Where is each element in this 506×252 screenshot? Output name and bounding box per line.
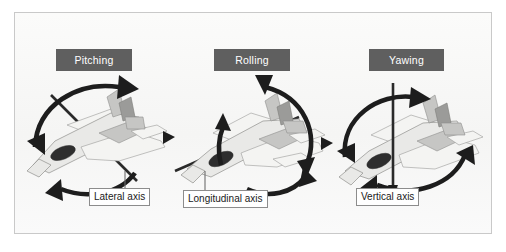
caption-longitudinal-axis: Longitudinal axis	[183, 190, 268, 208]
caption-vertical-axis: Vertical axis	[356, 188, 419, 206]
caption-lateral-axis: Lateral axis	[89, 188, 150, 206]
diagram-frame: Pitching	[14, 12, 492, 234]
diagram-stage: Pitching	[0, 0, 506, 252]
